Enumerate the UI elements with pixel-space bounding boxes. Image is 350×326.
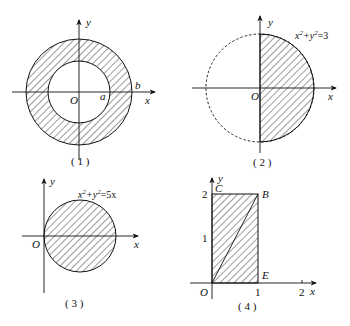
outer-radius-label: b: [135, 79, 141, 91]
point-e-label: E: [261, 269, 269, 281]
figure-1-caption: ( 1 ): [71, 155, 90, 168]
equation-label: x2+y2=5x: [77, 188, 116, 200]
figure-2-caption: ( 2 ): [253, 156, 272, 169]
figure-2: y x O x2+y2=3 ( 2 ): [192, 16, 336, 169]
figure-4-caption: ( 4 ): [238, 300, 257, 313]
point-b-label: B: [262, 188, 269, 200]
y-axis-label: y: [49, 175, 55, 187]
diagram-canvas: y x O a b ( 1 ) y x O x2+y2=3 ( 2 ) y x …: [0, 0, 350, 326]
y-tick-2-label: 2: [202, 188, 208, 200]
figure-3: y x O x2+y2=5x ( 3 ): [22, 175, 139, 310]
equation-label: x2+y2=3: [294, 29, 328, 41]
origin-label: O: [251, 90, 259, 102]
origin-label: O: [200, 286, 208, 298]
x-tick-1-label: 1: [255, 286, 261, 298]
y-axis-label: y: [267, 16, 273, 28]
inner-radius-label: a: [100, 90, 106, 102]
x-axis-label: x: [133, 238, 139, 250]
origin-label: O: [70, 94, 78, 106]
x-axis-label: x: [144, 94, 150, 106]
x-axis-label: x: [327, 90, 333, 102]
y-axis-label: y: [85, 16, 91, 28]
x-axis-label: x: [309, 285, 315, 297]
figure-4: y x O C B E 2 1 1 2 ( 4 ): [190, 172, 316, 313]
figure-1: y x O a b ( 1 ): [12, 16, 155, 168]
y-tick-1-label: 1: [202, 232, 208, 244]
x-tick-2-label: 2: [299, 286, 305, 298]
point-c-label: C: [215, 182, 223, 194]
figure-3-caption: ( 3 ): [65, 297, 84, 310]
origin-label: O: [32, 238, 40, 250]
